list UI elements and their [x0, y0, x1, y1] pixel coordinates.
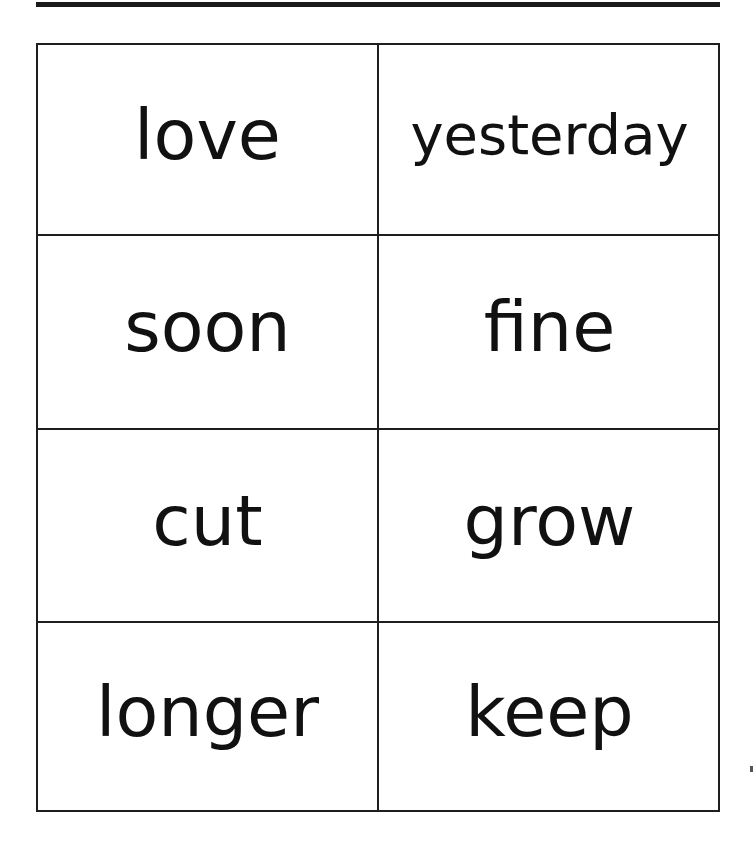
word-card: keep: [379, 623, 720, 810]
card-word: keep: [465, 677, 634, 747]
word-card: yesterday: [379, 45, 720, 236]
card-word: cut: [152, 486, 262, 556]
word-card: grow: [379, 430, 720, 623]
top-rule: [36, 2, 720, 7]
card-word: grow: [464, 486, 636, 556]
scan-edge-mark: [750, 766, 753, 772]
card-word: fine: [484, 292, 616, 362]
word-card: fine: [379, 236, 720, 430]
card-word: soon: [124, 292, 291, 362]
card-word: yesterday: [410, 107, 688, 163]
word-card: soon: [38, 236, 379, 430]
card-word: longer: [96, 677, 319, 747]
word-card-grid: love yesterday soon fine cut grow longer…: [36, 43, 720, 812]
word-card: love: [38, 45, 379, 236]
word-card: cut: [38, 430, 379, 623]
card-word: love: [134, 100, 281, 170]
word-card: longer: [38, 623, 379, 810]
